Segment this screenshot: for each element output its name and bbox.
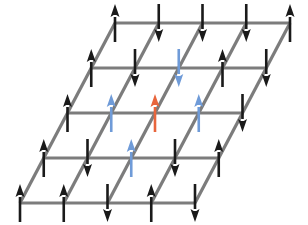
spin-arrow-head	[151, 94, 160, 107]
spin-lattice-figure	[0, 0, 308, 225]
spin-arrow-head	[198, 29, 207, 42]
spin-arrow-head	[111, 4, 120, 17]
spin-arrow-head	[242, 29, 251, 42]
spin-arrow-head	[103, 209, 112, 222]
spin-arrow-head	[63, 94, 72, 107]
spin-arrow-head	[194, 94, 203, 107]
spin-arrow-layer	[16, 4, 295, 222]
spin-arrow-head	[174, 74, 183, 87]
spin-arrow-head	[171, 164, 180, 177]
spin-arrow-head	[191, 209, 200, 222]
spin-arrow-head	[16, 184, 25, 197]
spin-arrow-head	[154, 29, 163, 42]
lattice-diagram	[0, 0, 308, 225]
spin-arrow-head	[131, 74, 140, 87]
spin-arrow-head	[147, 184, 156, 197]
spin-arrow-head	[262, 74, 271, 87]
spin-arrow-head	[39, 139, 48, 152]
spin-arrow-head	[87, 49, 96, 62]
spin-arrow-head	[83, 164, 92, 177]
spin-arrow-head	[238, 119, 247, 132]
spin-arrow-head	[127, 139, 136, 152]
spin-arrow-head	[218, 49, 227, 62]
spin-arrow-head	[286, 4, 295, 17]
spin-arrow-head	[59, 184, 68, 197]
spin-arrow-head	[214, 139, 223, 152]
spin-arrow-head	[107, 94, 116, 107]
